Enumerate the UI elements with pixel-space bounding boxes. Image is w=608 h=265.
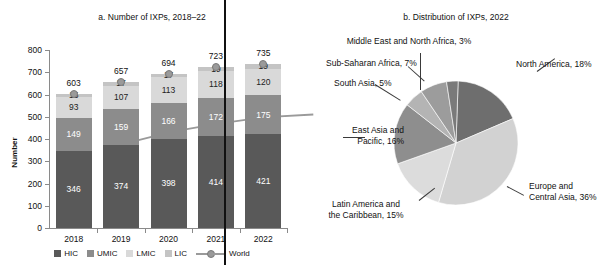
bar-group-2021[interactable]: 41417211819 — [198, 50, 234, 228]
pie-label-eap-line1: East Asia and — [304, 125, 404, 136]
bar-segment-hic[interactable]: 398 — [151, 139, 187, 228]
y-tick-label: 800 — [14, 45, 42, 55]
page-gutter-spine — [224, 0, 226, 265]
leader-mena — [420, 53, 421, 90]
bar-value-label: 159 — [114, 123, 128, 132]
panel-a-title: a. Number of IXPs, 2018–22 — [0, 12, 304, 22]
bar-segment-lmic[interactable]: 118 — [198, 71, 234, 97]
bar-value-label: 172 — [209, 113, 223, 122]
legend-label-hic: HIC — [64, 249, 78, 258]
y-tick-mark — [45, 117, 49, 118]
bar-segment-hic[interactable]: 421 — [245, 134, 281, 228]
bar-value-label: 346 — [67, 185, 81, 194]
bar-segment-lmic[interactable]: 120 — [245, 69, 281, 96]
pie-label-latam-line2: the Caribbean, 15% — [312, 210, 420, 221]
world-data-point-2020[interactable] — [165, 70, 173, 78]
bar-value-label: 113 — [162, 86, 176, 95]
legend-item-lic[interactable]: LIC — [165, 249, 187, 258]
pie-label-eca-line1: Europe and — [529, 181, 608, 192]
y-tick-mark — [45, 72, 49, 73]
bar-segment-lmic[interactable]: 107 — [103, 86, 139, 110]
bar-segment-umic[interactable]: 175 — [245, 95, 281, 134]
x-tick-mark — [97, 229, 98, 233]
pie-label-eap-line2: Pacific, 16% — [304, 136, 404, 147]
bar-segment-umic[interactable]: 166 — [151, 103, 187, 140]
world-data-point-2022[interactable] — [259, 60, 267, 68]
legend-label-umic: UMIC — [97, 249, 117, 258]
bar-segment-umic[interactable]: 172 — [198, 98, 234, 136]
panel-a-bar-chart: a. Number of IXPs, 2018–22 Number 010020… — [0, 0, 304, 265]
bar-value-label: 149 — [67, 130, 81, 139]
y-tick-label: 500 — [14, 112, 42, 122]
legend-swatch-lmic — [126, 250, 133, 257]
pie-label-europe-central-asia: Europe and Central Asia, 36% — [529, 181, 608, 203]
y-tick-mark — [45, 139, 49, 140]
pie-label-north-america: North America, 18% — [516, 59, 592, 70]
bar-value-label: 93 — [69, 103, 78, 112]
legend-swatch-lic — [165, 250, 172, 257]
bar-segment-umic[interactable]: 159 — [103, 109, 139, 144]
panel-a-legend: HIC UMIC LMIC LIC World — [0, 249, 304, 258]
y-tick-label: 300 — [14, 156, 42, 166]
y-tick-label: 700 — [14, 67, 42, 77]
y-tick-label: 200 — [14, 179, 42, 189]
total-label-2018: 603 — [52, 78, 96, 88]
bar-value-label: 414 — [209, 178, 223, 187]
pie-label-latin-america: Latin America and the Caribbean, 15% — [312, 199, 420, 221]
legend-item-umic[interactable]: UMIC — [87, 249, 117, 258]
y-tick-mark — [45, 184, 49, 185]
bar-segment-umic[interactable]: 149 — [56, 118, 92, 151]
bar-value-label: 175 — [256, 111, 270, 120]
bar-segment-lmic[interactable]: 93 — [56, 97, 92, 118]
bar-segment-lmic[interactable]: 113 — [151, 77, 187, 102]
pie-label-latam-line1: Latin America and — [312, 199, 420, 210]
bar-value-label: 374 — [114, 182, 128, 191]
bar-value-label: 421 — [256, 177, 270, 186]
legend-item-world[interactable]: World — [196, 249, 250, 258]
y-tick-label: 0 — [14, 223, 42, 233]
pie-label-mena: Middle East and North Africa, 3% — [347, 36, 472, 47]
bar-segment-hic[interactable]: 346 — [56, 151, 92, 228]
legend-label-lmic: LMIC — [136, 249, 155, 258]
bar-value-label: 118 — [209, 80, 223, 89]
pie-label-eca-line2: Central Asia, 36% — [529, 192, 608, 203]
x-tick-label-2018: 2018 — [52, 234, 96, 244]
bar-value-label: 166 — [161, 117, 175, 126]
legend-swatch-hic — [54, 250, 61, 257]
total-label-2020: 694 — [147, 58, 191, 68]
pie-label-south-asia: South Asia, 5% — [334, 78, 392, 89]
plot-area: 3461499315374159107173981661131741417211… — [50, 50, 287, 228]
pie-label-east-asia-pacific: East Asia and Pacific, 16% — [304, 125, 404, 147]
y-tick-mark — [45, 161, 49, 162]
legend-swatch-world — [196, 250, 226, 258]
figure-root: a. Number of IXPs, 2018–22 Number 010020… — [0, 0, 608, 265]
bar-value-label: 107 — [114, 93, 128, 102]
total-label-2019: 657 — [99, 66, 143, 76]
panel-a-y-axis-title: Number — [10, 123, 19, 183]
y-tick-mark — [45, 50, 49, 51]
y-tick-label: 100 — [14, 201, 42, 211]
world-data-point-2018[interactable] — [70, 90, 78, 98]
y-tick-label: 400 — [14, 134, 42, 144]
legend-label-lic: LIC — [175, 249, 187, 258]
bar-group-2018[interactable]: 3461499315 — [56, 50, 92, 228]
bar-value-label: 120 — [256, 78, 270, 87]
y-tick-label: 600 — [14, 90, 42, 100]
bar-segment-hic[interactable]: 374 — [103, 145, 139, 228]
legend-label-world: World — [229, 249, 250, 258]
pie-label-sub-saharan-africa: Sub-Saharan Africa, 7% — [326, 58, 417, 69]
legend-item-hic[interactable]: HIC — [54, 249, 78, 258]
bar-group-2019[interactable]: 37415910717 — [103, 50, 139, 228]
y-tick-mark — [45, 206, 49, 207]
y-tick-mark — [45, 228, 49, 229]
total-label-2021: 723 — [194, 51, 238, 61]
bar-group-2022[interactable]: 42117512019 — [245, 50, 281, 228]
panel-b-pie-chart: b. Distribution of IXPs, 2022 Middle Eas… — [304, 0, 608, 265]
world-data-point-2021[interactable] — [212, 63, 220, 71]
legend-item-lmic[interactable]: LMIC — [126, 249, 155, 258]
legend-swatch-umic — [87, 250, 94, 257]
bar-segment-hic[interactable]: 414 — [198, 136, 234, 228]
y-tick-mark — [45, 95, 49, 96]
bar-value-label: 398 — [161, 179, 175, 188]
world-data-point-2019[interactable] — [117, 78, 125, 86]
